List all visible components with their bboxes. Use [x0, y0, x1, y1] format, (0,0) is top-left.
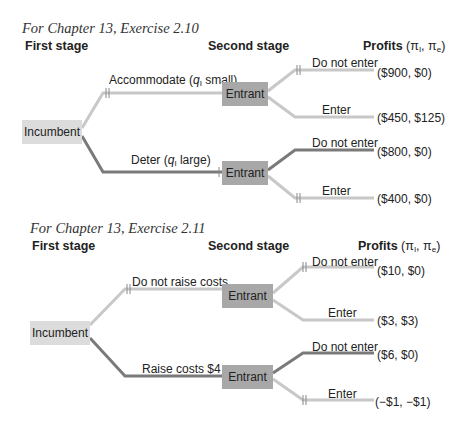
profits-pi-i: (π: [401, 239, 414, 253]
entrant-node-lower: Entrant: [222, 365, 273, 389]
enter-label: Enter: [328, 306, 357, 320]
exercise-title: For Chapter 13, Exercise 2.11: [30, 220, 206, 237]
do-not-raise-costs-label: Do not raise costs: [132, 275, 228, 289]
payoff: (−$1, −$1): [375, 395, 430, 409]
payoff: ($3, $3): [377, 314, 418, 328]
incumbent-node: Incumbent: [30, 321, 90, 345]
do-not-enter-label: Do not enter: [312, 255, 378, 269]
payoff: ($10, $0): [377, 264, 425, 278]
payoff: ($6, $0): [377, 348, 418, 362]
profits-pi-e: , π: [416, 239, 432, 253]
raise-costs-label: Raise costs $4: [142, 362, 221, 376]
profits-label: Profits: [358, 239, 398, 253]
second-stage-heading: Second stage: [208, 239, 289, 253]
profits-close: ): [436, 239, 440, 253]
do-not-enter-label: Do not enter: [312, 340, 378, 354]
enter-label: Enter: [328, 387, 357, 401]
profits-heading: Profits (πI, πe): [358, 239, 440, 254]
first-stage-heading: First stage: [32, 239, 95, 253]
entrant-node-upper: Entrant: [222, 284, 273, 308]
